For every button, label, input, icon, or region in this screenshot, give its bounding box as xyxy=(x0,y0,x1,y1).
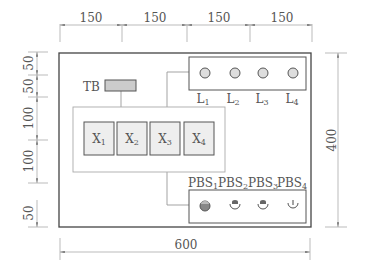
pbs1-button-icon xyxy=(200,201,210,211)
lamp-l1-icon xyxy=(200,68,210,78)
terminal-block xyxy=(105,80,136,91)
lamp-l2-icon xyxy=(230,68,240,78)
terminal-block-label: TB xyxy=(83,80,100,94)
lamp-l3-icon xyxy=(258,68,268,78)
top-dimension-3: 150 xyxy=(208,11,231,25)
top-dimension-2: 150 xyxy=(144,11,167,25)
top-dimension-4: 150 xyxy=(271,11,294,25)
top-dimension-1: 150 xyxy=(80,11,103,25)
left-dimension-4: 100 xyxy=(22,150,36,173)
left-dimension-3: 100 xyxy=(22,107,36,130)
left-dimension-lines xyxy=(28,52,48,227)
left-dimension-2: 50 xyxy=(22,78,36,93)
panel-layout-diagram: 150 150 150 150 50 50 100 100 50 400 600 xyxy=(0,0,365,273)
lamp-l4-icon xyxy=(288,68,298,78)
left-dimension-1: 50 xyxy=(22,55,36,70)
bottom-dimension: 600 xyxy=(175,238,198,252)
right-dimension: 400 xyxy=(325,129,339,152)
top-dimension-lines xyxy=(60,24,312,42)
left-dimension-5: 50 xyxy=(22,205,36,220)
